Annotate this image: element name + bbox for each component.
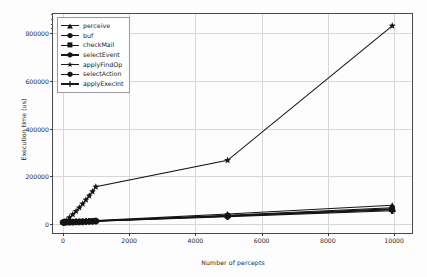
legend-marker-plus-icon xyxy=(61,79,79,88)
x-tick-label: 0 xyxy=(61,237,65,244)
y-tick-label: 400000 xyxy=(25,125,49,132)
x-tick-mark xyxy=(262,233,263,236)
legend-item-label: perceive xyxy=(83,21,110,31)
legend-item-checkMail: checkMail xyxy=(61,40,124,50)
y-tick-mark xyxy=(50,224,53,225)
y-tick-minor xyxy=(51,24,53,25)
legend-item-label: checkMail xyxy=(83,40,114,50)
legend-marker-square-icon xyxy=(61,41,79,50)
x-tick-label: 10000 xyxy=(384,237,404,244)
legend-item-label: applyExecInt xyxy=(83,79,124,89)
plot-area: 0200040006000800010000020000040000060000… xyxy=(52,13,413,234)
y-tick-mark xyxy=(50,129,53,130)
legend-marker-glyph xyxy=(67,33,73,39)
legend-item-buf: buf xyxy=(61,31,124,41)
legend-item-label: buf xyxy=(83,31,93,41)
y-tick-label: 0 xyxy=(45,221,49,228)
legend-marker-star-icon xyxy=(61,60,79,69)
x-tick-label: 4000 xyxy=(188,237,204,244)
legend-item-label: selectAction xyxy=(83,69,121,79)
x-axis-title: Number of percepts xyxy=(52,259,414,266)
legend-marker-glyph xyxy=(67,81,73,87)
y-tick-mark xyxy=(50,33,53,34)
legend-item-selectAction: selectAction xyxy=(61,69,124,79)
legend-marker-hexagon-icon xyxy=(61,70,79,79)
legend-marker-hexagon-icon xyxy=(61,31,79,40)
x-tick-label: 8000 xyxy=(320,237,336,244)
y-tick-label: 800000 xyxy=(25,30,49,37)
y-tick-label: 200000 xyxy=(25,173,49,180)
y-tick-label: 600000 xyxy=(25,77,49,84)
legend-item-perceive: perceive xyxy=(61,21,124,31)
data-point-marker xyxy=(92,183,99,189)
x-tick-mark xyxy=(63,233,64,236)
legend-item-label: selectEvent xyxy=(83,50,120,60)
x-tick-label: 6000 xyxy=(254,237,270,244)
x-tick-mark xyxy=(129,233,130,236)
legend-item-applyFindOp: applyFindOp xyxy=(61,60,124,70)
y-tick-minor xyxy=(51,14,53,15)
y-tick-mark xyxy=(50,176,53,177)
x-tick-mark xyxy=(195,233,196,236)
chart-figure: Execution time (us) Number of percepts 0… xyxy=(0,0,427,277)
x-tick-mark xyxy=(328,233,329,236)
legend-marker-hexagon-icon xyxy=(61,50,79,59)
legend-item-selectEvent: selectEvent xyxy=(61,50,124,60)
legend-item-label: applyFindOp xyxy=(83,60,122,70)
legend-marker-glyph xyxy=(67,23,73,28)
legend-marker-glyph xyxy=(67,71,73,77)
legend-marker-glyph xyxy=(67,43,72,48)
legend-marker-glyph xyxy=(67,52,73,58)
y-tick-minor xyxy=(51,19,53,20)
legend-marker-triangle-icon xyxy=(61,21,79,30)
chart-legend: perceivebufcheckMailselectEventapplyFind… xyxy=(57,17,130,93)
y-tick-mark xyxy=(50,81,53,82)
x-tick-label: 2000 xyxy=(121,237,137,244)
x-tick-mark xyxy=(394,233,395,236)
y-tick-minor xyxy=(51,28,53,29)
legend-item-applyExecInt: applyExecInt xyxy=(61,79,124,89)
